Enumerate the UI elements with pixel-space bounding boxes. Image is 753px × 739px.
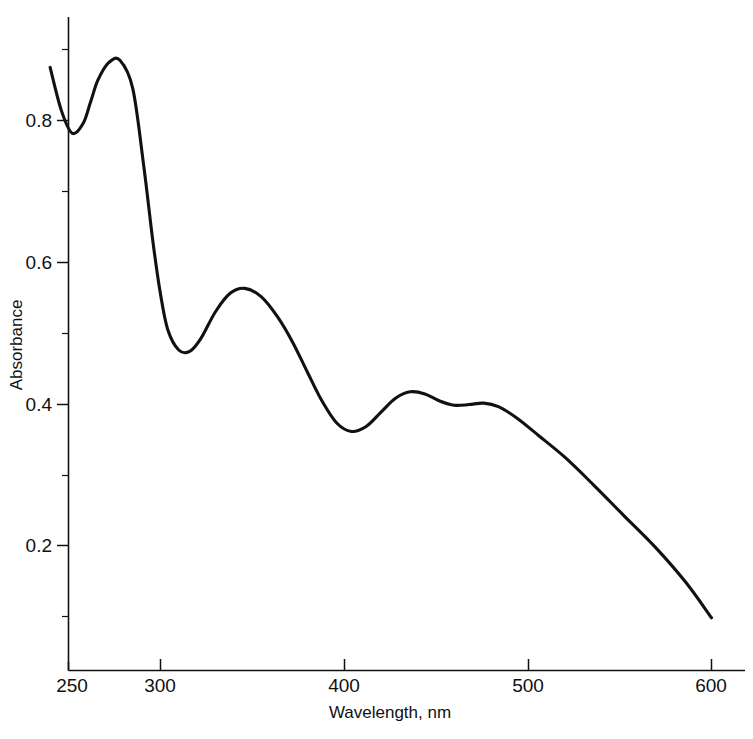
x-axis-title: Wavelength, nm bbox=[329, 703, 451, 722]
x-tick-label-250: 250 bbox=[56, 675, 88, 696]
y-axis-tick-labels: 0.8 0.6 0.4 0.2 bbox=[26, 110, 53, 556]
x-tick-label-500: 500 bbox=[512, 675, 544, 696]
y-tick-label-0.4: 0.4 bbox=[26, 394, 53, 415]
y-tick-label-0.8: 0.8 bbox=[26, 110, 52, 131]
x-axis-major-ticks bbox=[69, 659, 712, 671]
axes-group bbox=[69, 17, 746, 671]
x-tick-label-600: 600 bbox=[695, 675, 727, 696]
y-axis-minor-ticks bbox=[62, 50, 69, 617]
x-tick-label-300: 300 bbox=[144, 675, 176, 696]
y-axis-title: Absorbance bbox=[7, 300, 26, 391]
y-tick-label-0.2: 0.2 bbox=[26, 535, 52, 556]
absorbance-spectrum-chart: 0.8 0.6 0.4 0.2 250 300 400 500 600 Wave… bbox=[0, 0, 753, 739]
x-tick-label-400: 400 bbox=[328, 675, 360, 696]
chart-canvas: 0.8 0.6 0.4 0.2 250 300 400 500 600 Wave… bbox=[0, 0, 753, 739]
absorbance-curve bbox=[50, 58, 711, 618]
y-tick-label-0.6: 0.6 bbox=[26, 252, 52, 273]
x-axis-tick-labels: 250 300 400 500 600 bbox=[56, 675, 727, 696]
